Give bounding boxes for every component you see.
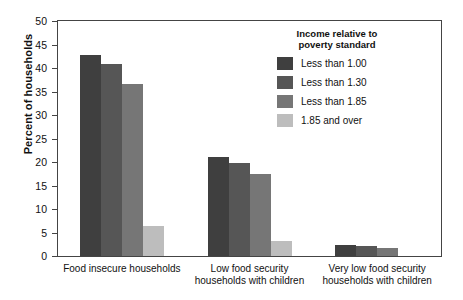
y-axis-title: Percent of households [22, 14, 34, 174]
x-axis-category-label: Very low food security households with c… [297, 263, 457, 287]
y-axis-tick-label: 0 [41, 250, 47, 262]
bar [101, 64, 122, 256]
bar-chart: Percent of households 051015202530354045… [0, 0, 463, 300]
y-axis-tick [52, 186, 58, 187]
legend-entry: Less than 1.85 [277, 95, 397, 108]
bar [143, 226, 164, 256]
legend-swatch [277, 114, 293, 127]
bar [208, 157, 229, 256]
bar [80, 55, 101, 256]
y-axis-tick [52, 21, 58, 22]
bar [335, 245, 356, 256]
bar-group: Food insecure households [80, 21, 164, 256]
legend-swatch [277, 57, 293, 70]
legend: Income relative to poverty standard Less… [277, 28, 397, 133]
legend-entry-label: Less than 1.30 [301, 77, 367, 88]
legend-title: Income relative to poverty standard [277, 28, 397, 50]
y-axis-tick-label: 20 [35, 156, 47, 168]
y-axis-tick-label: 25 [35, 133, 47, 145]
y-axis-tick [52, 233, 58, 234]
y-axis-tick-label: 15 [35, 180, 47, 192]
y-axis-tick [52, 68, 58, 69]
y-axis-tick-label: 30 [35, 109, 47, 121]
y-axis-tick-label: 5 [41, 227, 47, 239]
y-axis-tick [52, 92, 58, 93]
legend-entry: Less than 1.30 [277, 76, 397, 89]
y-axis-tick-label: 10 [35, 203, 47, 215]
legend-entry: Less than 1.00 [277, 57, 397, 70]
legend-swatch [277, 76, 293, 89]
y-axis-tick [52, 162, 58, 163]
y-axis-tick [52, 256, 58, 257]
y-axis-tick-label: 40 [35, 62, 47, 74]
legend-entry-label: Less than 1.00 [301, 58, 367, 69]
legend-swatch [277, 95, 293, 108]
y-axis-tick [52, 115, 58, 116]
bar [377, 248, 398, 256]
bar [229, 163, 250, 256]
y-axis-tick [52, 209, 58, 210]
legend-entry: 1.85 and over [277, 114, 397, 127]
y-axis-tick-label: 35 [35, 86, 47, 98]
bar [122, 84, 143, 256]
y-axis-tick-label: 45 [35, 39, 47, 51]
y-axis-tick-label: 50 [35, 15, 47, 27]
y-axis-tick [52, 45, 58, 46]
legend-entry-label: Less than 1.85 [301, 96, 367, 107]
bar [250, 174, 271, 256]
legend-entry-label: 1.85 and over [301, 115, 362, 126]
bar [271, 241, 292, 257]
y-axis-tick [52, 139, 58, 140]
bar [356, 246, 377, 256]
legend-entries: Less than 1.00Less than 1.30Less than 1.… [277, 57, 397, 127]
